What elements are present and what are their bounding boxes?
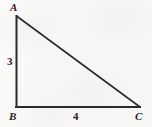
- triangle-drawing: [0, 0, 152, 127]
- vertex-label-a: A: [10, 2, 17, 13]
- right-triangle-figure: A B C 3 4: [0, 0, 152, 127]
- vertex-label-b: B: [9, 111, 16, 122]
- side-length-label-horizontal: 4: [73, 111, 79, 122]
- side-length-label-vertical: 3: [7, 56, 13, 67]
- triangle-side-ac-hypotenuse: [17, 16, 141, 107]
- vertex-label-c: C: [135, 111, 142, 122]
